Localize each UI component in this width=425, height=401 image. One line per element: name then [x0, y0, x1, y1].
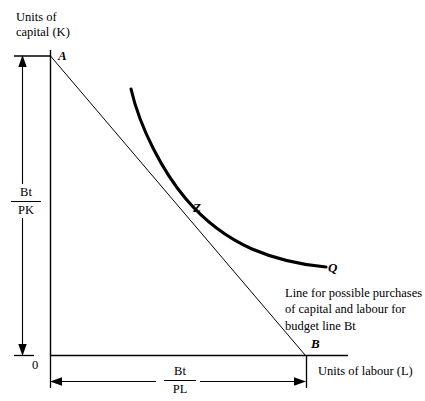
- horizontal-measure-denominator: PL: [164, 381, 196, 397]
- point-label-q: Q: [328, 260, 337, 275]
- y-axis-title: Units of capital (K): [16, 10, 70, 40]
- origin-label: 0: [32, 358, 38, 373]
- y-axis-title-line1: Units of: [16, 10, 57, 24]
- x-axis-title: Units of labour (L): [318, 364, 413, 379]
- isoquant-diagram: Units of capital (K) A Z Q B 0 Bt PK Bt …: [0, 0, 425, 401]
- budget-line-ab: [51, 56, 306, 356]
- vertical-measure-label: Bt PK: [9, 185, 43, 218]
- vertical-measure-numerator: Bt: [11, 185, 41, 202]
- point-label-b: B: [311, 336, 320, 351]
- point-label-z: Z: [193, 200, 201, 215]
- vertical-measure-denominator: PK: [11, 202, 41, 218]
- budget-line-annotation-line1: Line for possible purchases: [285, 286, 422, 300]
- budget-line-annotation-line3: budget line Bt: [285, 319, 356, 333]
- tick-group: [14, 56, 307, 388]
- budget-line-annotation-line2: of capital and labour for: [285, 302, 406, 316]
- isoquant-curve-q: [131, 89, 326, 267]
- budget-line-annotation: Line for possible purchases of capital a…: [285, 285, 422, 334]
- point-label-a: A: [58, 48, 67, 63]
- y-axis-title-line2: capital (K): [16, 25, 70, 39]
- horizontal-measure-label: Bt PL: [162, 364, 198, 397]
- horizontal-measure-numerator: Bt: [164, 364, 196, 381]
